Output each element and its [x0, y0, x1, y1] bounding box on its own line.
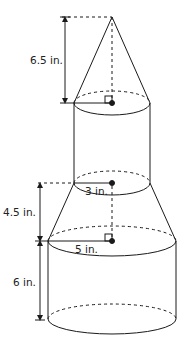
cone — [62, 17, 150, 115]
upper-radius-label: 3 in. — [85, 185, 108, 197]
composite-solid-diagram: 6.5 in. 3 in. 4.5 in. 5 in. 6 in. — [0, 0, 189, 350]
frustum-height-label: 4.5 in. — [3, 206, 36, 218]
upper-cylinder — [74, 103, 150, 195]
lower-cylinder-height-label: 6 in. — [13, 276, 36, 288]
cone-height-label: 6.5 in. — [30, 54, 63, 66]
lower-cylinder — [48, 239, 176, 335]
lower-radius-label: 5 in. — [75, 243, 98, 255]
